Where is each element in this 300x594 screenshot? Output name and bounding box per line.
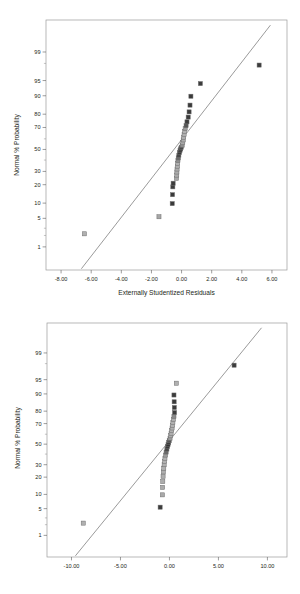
y-tick-label: 70: [34, 124, 40, 130]
x-tick-label: 0.00: [176, 276, 187, 282]
y-axis-title: Normal % Probability: [14, 407, 22, 469]
y-tick-label: 10: [35, 491, 41, 497]
normal-probability-plot-figure-1: 15102030507080909599-8.00-6.00-4.00-2.00…: [0, 0, 300, 305]
y-tick-label: 50: [34, 146, 40, 152]
reference-line: [81, 25, 270, 269]
data-point-marker: [185, 120, 189, 124]
data-point-marker: [161, 480, 165, 484]
data-point-marker: [172, 405, 176, 409]
y-axis-title: Normal % Probability: [13, 114, 21, 176]
x-tick-label: 5.00: [213, 563, 224, 569]
data-point-marker: [172, 393, 176, 397]
data-point-marker: [160, 493, 164, 497]
data-point-marker: [81, 521, 85, 525]
normal-probability-plot-figure-2: 15102030507080909599-10.00-5.000.005.001…: [0, 305, 300, 594]
data-point-marker: [174, 381, 178, 385]
y-tick-label: 30: [34, 168, 40, 174]
data-point-marker: [170, 202, 174, 206]
y-tick-label: 70: [35, 421, 41, 427]
x-tick-label: 0.00: [164, 563, 175, 569]
data-point-marker: [170, 193, 174, 197]
y-tick-label: 99: [35, 350, 41, 356]
x-tick-label: -5.00: [114, 563, 127, 569]
x-tick-label: -10.00: [64, 563, 80, 569]
data-point-marker: [189, 94, 193, 98]
y-tick-label: 1: [37, 244, 40, 250]
data-point-marker: [188, 103, 192, 107]
y-tick-label: 1: [38, 532, 41, 538]
x-tick-label: 10.00: [260, 563, 274, 569]
data-point-marker: [232, 363, 236, 367]
y-tick-label: 5: [38, 506, 41, 512]
y-tick-label: 90: [35, 391, 41, 397]
x-tick-label: 6.00: [266, 276, 277, 282]
y-tick-label: 30: [35, 462, 41, 468]
y-tick-label: 99: [34, 49, 40, 55]
y-tick-label: 80: [35, 408, 41, 414]
data-point-marker: [184, 124, 188, 128]
x-tick-label: -4.00: [115, 276, 128, 282]
x-tick-label: 4.00: [236, 276, 247, 282]
y-tick-label: 80: [34, 111, 40, 117]
y-tick-label: 95: [35, 377, 41, 383]
data-point-marker: [187, 110, 191, 114]
y-tick-label: 10: [34, 200, 40, 206]
x-tick-label: -6.00: [85, 276, 98, 282]
x-axis-title: Externally Studentized Residuals: [118, 289, 215, 297]
data-point-marker: [186, 115, 190, 119]
data-point-marker: [171, 181, 175, 185]
y-tick-label: 20: [34, 182, 40, 188]
y-tick-label: 20: [35, 474, 41, 480]
y-tick-label: 90: [34, 93, 40, 99]
data-point-marker: [158, 505, 162, 509]
x-tick-label: 2.00: [206, 276, 217, 282]
data-point-marker: [257, 63, 261, 67]
data-point-marker: [161, 485, 165, 489]
x-tick-label: -2.00: [145, 276, 158, 282]
plot-canvas-1: 15102030507080909599-8.00-6.00-4.00-2.00…: [0, 0, 300, 305]
y-tick-label: 5: [37, 215, 40, 221]
data-point-marker: [157, 215, 161, 219]
data-point-marker: [161, 474, 165, 478]
y-tick-label: 50: [35, 441, 41, 447]
data-point-marker: [172, 410, 176, 414]
data-point-marker: [172, 414, 176, 418]
y-tick-label: 95: [34, 78, 40, 84]
data-point-marker: [198, 82, 202, 86]
data-point-marker: [172, 400, 176, 404]
x-tick-label: -8.00: [55, 276, 68, 282]
data-point-marker: [82, 232, 86, 236]
plot-canvas-2: 15102030507080909599-10.00-5.000.005.001…: [0, 305, 300, 594]
